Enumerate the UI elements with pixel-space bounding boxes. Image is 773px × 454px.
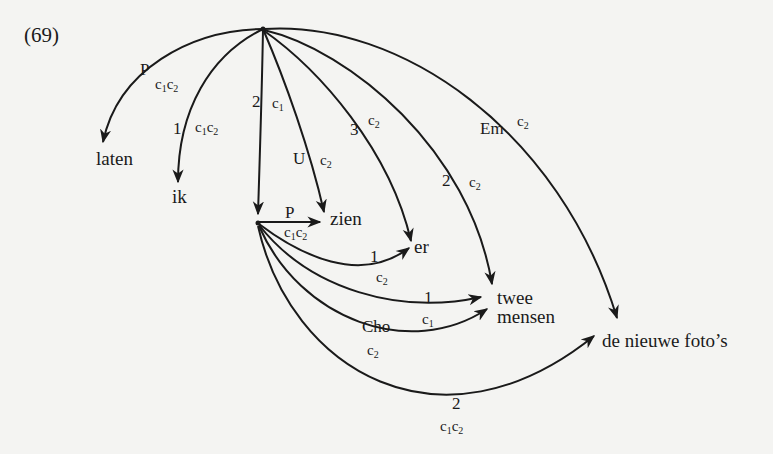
edge-annotation: c2 [320,153,332,170]
edge-label-u: U [293,150,305,167]
edge-label-p: P [285,204,294,221]
edge-label-1: 1 [424,289,433,306]
edge-annotation: c1c2 [440,419,463,436]
edge-label-3: 3 [350,121,359,138]
node-de-nieuwe-fotos: de nieuwe foto’s [602,331,728,350]
diagram-edges [0,0,773,454]
edge-annotation: c2 [376,270,388,287]
lower-hub [256,221,261,226]
edge-label-1: 1 [370,248,379,265]
edge-annotation: c1c2 [284,225,307,242]
edge-annotation: c1c2 [195,120,218,137]
edge-top-laten [103,29,263,142]
node-er: er [414,237,429,256]
node-laten: laten [96,149,133,168]
edge-annotation: c1c2 [155,77,178,94]
example-number: (69) [24,25,59,46]
node-ik: ik [172,187,187,206]
edge-annotation: c1 [272,96,284,113]
edge-label-em: Em [480,120,504,137]
edge-top-ik [178,29,263,182]
edge-top-lower-hub [258,29,263,214]
edge-annotation: c2 [517,114,529,131]
edge-label-1: 1 [173,120,182,137]
edge-annotation: c2 [368,113,380,130]
edge-top-zien [263,29,324,212]
edge-label-2: 2 [442,172,451,189]
top-hub [261,27,266,32]
edge-annotation: c2 [469,175,481,192]
node-mensen: mensen [497,307,555,326]
edge-annotation: c2 [367,343,379,360]
node-zien: zien [330,209,362,228]
edge-label-2: 2 [252,93,261,110]
dependency-diagram: (69) laten ik zien er twee mensen de nie… [0,0,773,454]
edge-lower-er [259,224,409,265]
edge-label-cho: Cho [362,318,390,335]
node-twee: twee [497,288,533,307]
edge-annotation: c1 [422,312,434,329]
edge-label-2: 2 [452,395,461,412]
edge-label-p: P [140,61,149,78]
